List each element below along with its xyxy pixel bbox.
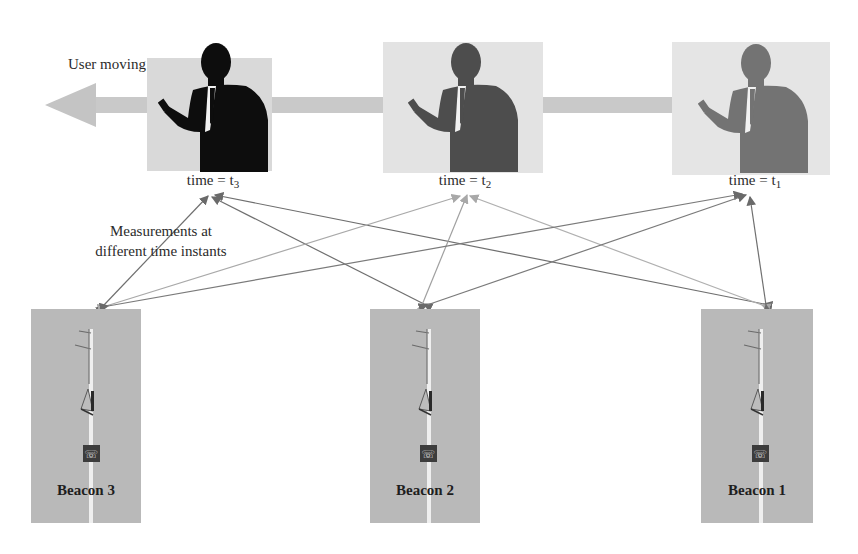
measurements-caption: Measurements at different time instants: [76, 221, 246, 261]
beacon-2: ☏ Beacon 2: [370, 309, 480, 523]
beacon-1: ☏ Beacon 1: [701, 309, 813, 523]
link-t3-beacon1: [215, 195, 764, 304]
beacon-3-label: Beacon 3: [31, 482, 141, 499]
link-t2-beacon1: [470, 196, 762, 305]
link-t1-beacon2: [427, 195, 746, 305]
svg-text:☏: ☏: [754, 448, 768, 461]
svg-text:☏: ☏: [85, 448, 99, 461]
beacon-2-label: Beacon 2: [370, 482, 480, 499]
beacon-3: ☏ Beacon 3: [31, 309, 141, 523]
link-t2-beacon2: [422, 195, 467, 305]
beacon-1-label: Beacon 1: [701, 482, 813, 499]
svg-text:☏: ☏: [422, 448, 436, 461]
link-t1-beacon1: [750, 197, 766, 305]
